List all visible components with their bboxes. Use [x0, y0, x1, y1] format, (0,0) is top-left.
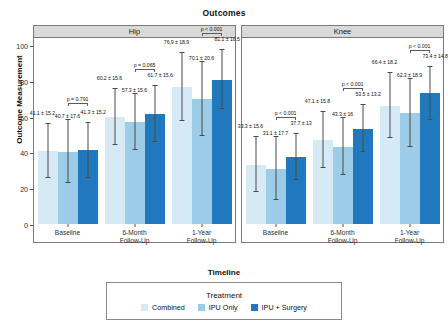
error-bar — [295, 134, 296, 180]
error-bar-cap — [219, 108, 224, 109]
legend-item[interactable]: Combined — [141, 303, 185, 312]
error-bar-cap — [219, 49, 224, 50]
legend-swatch — [198, 304, 205, 311]
bar-value-label: 57.3 ± 15.6 — [122, 87, 147, 93]
bar-wrapper: 53.5 ± 13.2 — [353, 38, 373, 224]
bar-group: 33.3 ± 15.631.1 ± 17.737.7 ± 13p < 0.001 — [242, 38, 309, 224]
error-bar-cap — [340, 174, 345, 175]
bar-value-label: 31.1 ± 17.7 — [263, 130, 288, 136]
x-axis-tick: 6-MonthFollow-Up — [309, 224, 376, 242]
error-bar-cap — [85, 177, 90, 178]
bar-value-label: 76.9 ± 18.9 — [164, 39, 189, 45]
error-bar — [134, 94, 135, 150]
error-bar — [322, 112, 323, 168]
x-axis-tick-mark — [342, 224, 343, 227]
x-axis-tick: Baseline — [34, 224, 101, 242]
error-bar — [154, 86, 155, 142]
error-bar — [255, 137, 256, 193]
bar-value-label: 41.1 ± 15.2 — [30, 110, 55, 116]
x-axis: Baseline6-MonthFollow-Up1-YearFollow-Up — [242, 224, 443, 242]
error-bar-cap — [360, 151, 365, 152]
bar-wrapper: 81.1 ± 16.5 — [212, 38, 232, 224]
bar-value-label: 62.3 ± 18.9 — [397, 72, 422, 78]
error-bar-cap — [179, 120, 184, 121]
error-bar-cap — [253, 136, 258, 137]
error-bar-cap — [407, 146, 412, 147]
error-bar-cap — [273, 136, 278, 137]
p-value-label: p < 0.001 — [275, 110, 297, 116]
error-bar — [409, 79, 410, 146]
y-axis-tick: 0 — [0, 220, 33, 230]
error-bar-cap — [65, 119, 70, 120]
legend-swatch — [251, 304, 258, 311]
y-axis-tick-label: 20 — [20, 186, 28, 193]
panel-container: Hip41.1 ± 15.240.7 ± 17.641.3 ± 15.2p = … — [33, 25, 444, 243]
p-value-bracket — [202, 33, 222, 36]
error-bar-cap — [293, 133, 298, 134]
bar-value-label: 81.1 ± 16.5 — [214, 36, 239, 42]
bar-wrapper: 62.3 ± 18.9 — [400, 38, 420, 224]
bar-wrapper: 43.3 ± 16 — [333, 38, 353, 224]
y-axis-tick: 100 — [0, 42, 33, 52]
bar-wrapper: 31.1 ± 17.7 — [266, 38, 286, 224]
y-axis-tick-label: 80 — [20, 79, 28, 86]
error-bar — [221, 50, 222, 109]
error-bar-cap — [85, 122, 90, 123]
bar-group: 66.4 ± 18.262.3 ± 18.973.4 ± 14.8p < 0.0… — [376, 38, 443, 224]
p-value-label: p = 0.065 — [134, 62, 156, 68]
x-axis-tick: 1-YearFollow-Up — [376, 224, 443, 242]
y-axis-tick: 60 — [0, 113, 33, 123]
error-bar-cap — [253, 191, 258, 192]
bar-value-label: 47.1 ± 15.8 — [305, 98, 330, 104]
error-bar-cap — [340, 117, 345, 118]
error-bar — [429, 67, 430, 120]
plot-area: 41.1 ± 15.240.7 ± 17.641.3 ± 15.2p = 0.7… — [34, 38, 235, 224]
bar-value-label: 43.3 ± 16 — [332, 111, 353, 117]
legend: Treatment CombinedIPU OnlyIPU + Surgery — [106, 282, 342, 320]
p-value-bracket — [410, 50, 430, 53]
x-axis-tick-mark — [201, 224, 202, 227]
x-axis-tick: 1-YearFollow-Up — [168, 224, 235, 242]
error-bar-cap — [199, 61, 204, 62]
legend-items: CombinedIPU OnlyIPU + Surgery — [141, 303, 307, 312]
y-axis-tick-label: 100 — [16, 43, 28, 50]
bar-groups: 41.1 ± 15.240.7 ± 17.641.3 ± 15.2p = 0.7… — [34, 38, 235, 224]
bar-wrapper: 76.9 ± 18.9 — [172, 38, 192, 224]
x-axis-tick-label: Baseline — [55, 229, 80, 237]
error-bar-cap — [387, 72, 392, 73]
error-bar — [87, 123, 88, 177]
panel-knee: Knee33.3 ± 15.631.1 ± 17.737.7 ± 13p < 0… — [241, 25, 444, 243]
p-value-label: p < 0.001 — [201, 26, 223, 32]
legend-item[interactable]: IPU + Surgery — [251, 303, 307, 312]
error-bar-cap — [65, 182, 70, 183]
chart-root: Outcomes Outcome Measurement 02040608010… — [0, 0, 448, 327]
bar-wrapper: 41.1 ± 15.2 — [38, 38, 58, 224]
error-bar — [362, 105, 363, 152]
error-bar — [181, 53, 182, 120]
bar-wrapper: 66.4 ± 18.2 — [380, 38, 400, 224]
x-axis-tick-label: 1-YearFollow-Up — [187, 229, 217, 245]
x-axis-tick-label: 6-MonthFollow-Up — [328, 229, 358, 245]
panel-hip: Hip41.1 ± 15.240.7 ± 17.641.3 ± 15.2p = … — [33, 25, 236, 243]
error-bar-cap — [427, 66, 432, 67]
bar-wrapper: 73.4 ± 14.8 — [420, 38, 440, 224]
panel-body: 41.1 ± 15.240.7 ± 17.641.3 ± 15.2p = 0.7… — [33, 38, 236, 243]
bar-group: 47.1 ± 15.843.3 ± 1653.5 ± 13.2p < 0.001 — [309, 38, 376, 224]
bar-wrapper: 41.3 ± 15.2 — [78, 38, 98, 224]
chart-title: Outcomes — [0, 8, 448, 18]
error-bar — [67, 120, 68, 183]
error-bar — [47, 124, 48, 178]
error-bar-cap — [427, 119, 432, 120]
p-value-bracket — [68, 103, 88, 106]
error-bar-cap — [132, 149, 137, 150]
error-bar — [201, 62, 202, 135]
error-bar-cap — [320, 111, 325, 112]
y-axis: 020406080100 — [0, 38, 33, 243]
bar-wrapper: 40.7 ± 17.6 — [58, 38, 78, 224]
bar-group: 60.2 ± 15.657.3 ± 15.661.7 ± 15.6p = 0.0… — [101, 38, 168, 224]
error-bar-cap — [320, 167, 325, 168]
legend-item[interactable]: IPU Only — [198, 303, 238, 312]
plot-area: 33.3 ± 15.631.1 ± 17.737.7 ± 13p < 0.001… — [242, 38, 443, 224]
error-bar-cap — [407, 78, 412, 79]
error-bar-cap — [112, 144, 117, 145]
